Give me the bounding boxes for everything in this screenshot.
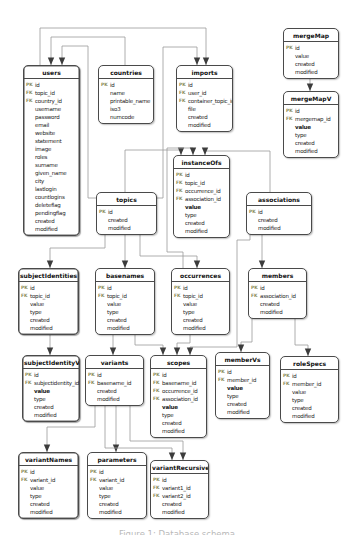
field-name: variant1_id [162, 484, 191, 492]
table-occurrences[interactable]: occurrencesPKidFKtopic_idvaluetypecreate… [171, 268, 230, 335]
table-title-roleSpecs: roleSpecs [281, 357, 338, 370]
table-title-mergeMapV: mergeMapV [284, 92, 338, 105]
field-row: modified [25, 411, 78, 419]
field-row: created [179, 113, 231, 121]
field-row: FKtopic_id [176, 179, 228, 187]
field-row: PKid [25, 371, 78, 379]
field-row: modified [251, 308, 305, 316]
field-name: type [292, 396, 304, 404]
table-scopes[interactable]: scopesPKidFKbasename_idFKoccurrence_idFK… [150, 355, 207, 438]
field-row: lastlogin [26, 185, 78, 193]
table-parameters[interactable]: parametersPKidFKvariant_idvaluetypecreat… [87, 452, 147, 519]
field-name: created [34, 403, 54, 411]
field-row: FKvariant_id [90, 476, 145, 484]
field-list: PKidFKvariant_idvaluetypecreatedmodified [88, 466, 146, 518]
table-instanceOfs[interactable]: instanceOfsPKidFKtopic_idFKoccurrence_id… [173, 155, 230, 238]
field-row: email [26, 121, 78, 129]
field-row: modified [174, 324, 228, 332]
table-countries[interactable]: countriesPKidnameprintable_nameiso3numco… [98, 65, 154, 124]
field-name: type [295, 131, 307, 139]
field-row: PKid [90, 468, 145, 476]
field-row: value [25, 387, 78, 395]
field-list: PKidFKassociation_idcreatedmodified [249, 282, 306, 318]
arrowhead-icon [47, 348, 53, 356]
field-name: value [162, 403, 178, 411]
field-list: PKidFKsubjectidentity_idvaluetypecreated… [23, 369, 79, 421]
field-row: pendingflag [26, 209, 78, 217]
table-title-users: users [24, 66, 79, 79]
field-list: PKidFKuser_idFKcontainer_topic_idfilecre… [177, 79, 232, 131]
arrowhead-icon [160, 348, 166, 356]
table-title-subjectIdentityVs: subjectIdentityVs [23, 356, 79, 369]
field-list: PKidcreatedmodified [247, 206, 311, 234]
field-row: PKid [153, 476, 207, 484]
field-row: PKid [101, 81, 152, 89]
table-title-variantNames: variantNames [19, 453, 78, 466]
arrowhead-icon [169, 453, 175, 461]
table-variantNames[interactable]: variantNamesPKidFKvariant_idvaluetypecre… [18, 452, 79, 519]
fk-key-icon: FK [26, 89, 35, 97]
field-row: created [218, 400, 268, 408]
table-subjectIdentityVs[interactable]: subjectIdentityVsPKidFKsubjectidentity_i… [22, 355, 80, 422]
field-row: FKbasename_id [153, 379, 205, 387]
table-mergeMapV[interactable]: mergeMapVPKidFKmergemap_idvaluetypecreat… [283, 91, 339, 158]
table-roleSpecs[interactable]: roleSpecsPKidFKmember_idvaluetypecreated… [280, 356, 339, 423]
field-row: value [218, 384, 268, 392]
field-name: modified [260, 308, 282, 316]
field-name: name [110, 89, 125, 97]
field-row: created [98, 316, 153, 324]
field-name: id [162, 476, 167, 484]
table-subjectIdentities[interactable]: subjectIdentitiesPKidFKtopic_idvaluetype… [18, 268, 79, 335]
arrowhead-icon [180, 453, 186, 461]
table-associations[interactable]: associationsPKidcreatedmodified [246, 192, 312, 235]
field-name: member_id [292, 380, 321, 388]
field-list: PKidFKvariant_idvaluetypecreatedmodified [19, 466, 78, 518]
fk-key-icon: FK [176, 195, 185, 203]
field-row: PKid [98, 284, 153, 292]
field-row: value [21, 484, 77, 492]
pk-key-icon: PK [153, 371, 162, 379]
table-title-instanceOfs: instanceOfs [174, 156, 229, 169]
fk-key-icon: FK [25, 379, 34, 387]
table-variants[interactable]: variantsPKidFKbasename_idcreatedmodified [85, 355, 144, 406]
fk-key-icon: FK [286, 115, 295, 123]
table-variantRecursives[interactable]: variantRecursivesPKidFKvariant1_idFKvari… [150, 460, 209, 519]
field-row: created [21, 316, 77, 324]
fk-key-icon: FK [153, 395, 162, 403]
table-basenames[interactable]: basenamesPKidFKtopic_idvaluetypecreatedm… [95, 268, 155, 335]
field-name: modified [35, 225, 57, 233]
fk-key-icon: FK [88, 379, 97, 387]
arrowhead-icon [190, 148, 196, 156]
field-row: PKid [179, 81, 231, 89]
pk-key-icon: PK [21, 284, 30, 292]
arrowhead-icon [203, 58, 209, 66]
field-name: username [35, 105, 61, 113]
field-list: PKidFKtopic_idvaluetypecreatedmodified [172, 282, 229, 334]
fk-key-icon: FK [179, 97, 188, 105]
field-row: FKassociation_id [153, 395, 205, 403]
table-mergeMap[interactable]: mergeMapPKidvaluecreatedmodified [283, 28, 339, 79]
field-row: value [21, 300, 77, 308]
field-name: printable_name [110, 97, 150, 105]
table-members[interactable]: membersPKidFKassociation_idcreatedmodifi… [248, 268, 307, 319]
field-row: modified [21, 508, 77, 516]
table-title-mergeMap: mergeMap [284, 29, 338, 42]
field-row: PKid [251, 284, 305, 292]
field-name: created [30, 316, 50, 324]
arrowhead-icon [307, 84, 313, 92]
field-list: PKidFKmember_idvaluetypecreatedmodified [281, 370, 338, 422]
table-users[interactable]: usersPKidFKtopic_idFKcountry_idusernamep… [23, 65, 80, 236]
field-name: id [183, 284, 188, 292]
field-name: modified [99, 508, 121, 516]
field-name: basename_id [97, 379, 131, 387]
table-topics[interactable]: topicsPKidcreatedmodified [96, 192, 157, 235]
table-imports[interactable]: importsPKidFKuser_idFKcontainer_topic_id… [176, 65, 233, 132]
field-name: value [34, 387, 50, 395]
field-name: variant_id [30, 476, 55, 484]
table-memberVs[interactable]: memberVsPKidFKmember_idvaluetypecreatedm… [215, 352, 270, 419]
field-name: subjectidentity_id [34, 379, 79, 387]
field-row: type [286, 131, 337, 139]
field-name: iso3 [110, 105, 120, 113]
field-row: statement [26, 137, 78, 145]
field-name: statement [35, 137, 62, 145]
